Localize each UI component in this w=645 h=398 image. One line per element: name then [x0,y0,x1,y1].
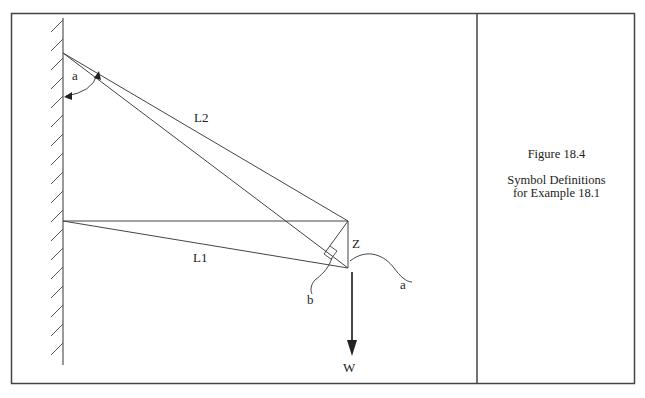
figure-caption: Figure 18.4 Symbol Definitions for Examp… [478,148,635,200]
wall-support [51,18,63,365]
right-angle-marker-icon [324,246,337,259]
label-cable-L1: L1 [193,250,207,265]
label-angle-a-top: a [72,68,78,83]
cable-L2-deflected [63,53,348,268]
figure-description-line2: for Example 18.1 [478,187,635,200]
label-displacement-Z: Z [352,236,360,251]
cable-L2 [63,53,348,221]
label-weight-W: W [343,360,356,375]
perpendicular-line [324,221,348,254]
wall-hatching-icon [51,20,63,355]
label-angle-a-bottom: a [400,277,406,292]
weight-arrow-head-icon [347,340,357,356]
figure-number: Figure 18.4 [478,148,635,161]
label-cable-L2: L2 [194,110,208,125]
arrowhead-lower-icon [64,92,72,100]
label-angle-b: b [307,292,314,307]
